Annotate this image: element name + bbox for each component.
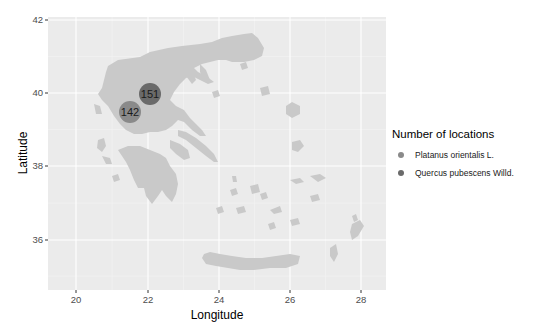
y-tick-40: 40	[32, 87, 43, 98]
legend-key	[392, 165, 410, 181]
legend-title: Number of locations	[392, 128, 514, 140]
x-tick-28: 28	[356, 294, 367, 305]
point-label-151: 151	[141, 88, 159, 100]
y-tick-36: 36	[32, 234, 43, 245]
y-tick-labels: 36 38 40 42	[32, 14, 43, 245]
y-tick-38: 38	[32, 160, 43, 171]
point-label-142: 142	[121, 106, 139, 118]
legend: Number of locations Platanus orientalis …	[392, 128, 514, 182]
legend-item-quercus: Quercus pubescens Willd.	[392, 164, 514, 182]
legend-dot-icon	[398, 152, 404, 158]
legend-dot-icon	[398, 170, 404, 176]
point-platanus[interactable]: 142	[119, 101, 141, 123]
legend-label: Platanus orientalis L.	[415, 150, 494, 160]
y-axis-title: Latitude	[16, 131, 30, 174]
legend-label: Quercus pubescens Willd.	[415, 168, 514, 178]
greece-landmass	[94, 33, 364, 270]
x-tick-24: 24	[214, 294, 225, 305]
x-tick-22: 22	[143, 294, 154, 305]
x-tick-labels: 20 22 24 26 28	[71, 294, 367, 305]
x-tick-20: 20	[71, 294, 82, 305]
point-quercus[interactable]: 151	[139, 83, 161, 105]
x-tick-26: 26	[285, 294, 296, 305]
y-tick-42: 42	[32, 14, 43, 25]
legend-item-platanus: Platanus orientalis L.	[392, 146, 514, 164]
legend-key	[392, 147, 410, 163]
x-axis-ticks	[76, 290, 361, 293]
y-axis-ticks	[45, 20, 48, 240]
x-axis-title: Longitude	[191, 308, 244, 322]
